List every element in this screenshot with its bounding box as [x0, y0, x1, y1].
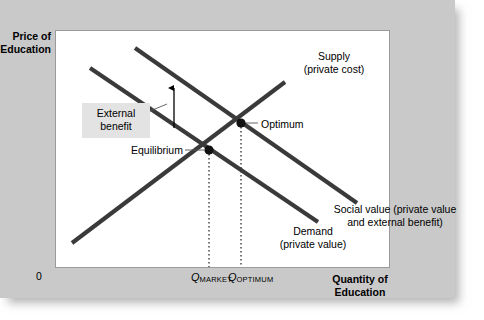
x-tick-optimum-subscript: OPTIMUM: [237, 275, 274, 284]
equilibrium-label: Equilibrium: [131, 144, 183, 157]
optimum-label: Optimum: [261, 118, 304, 131]
x-tick-optimum: QOPTIMUM: [228, 271, 273, 283]
equilibrium-point: [204, 145, 213, 154]
optimum-point: [236, 118, 245, 127]
demand-curve: [90, 68, 318, 222]
x-tick-optimum-letter: Q: [228, 271, 237, 283]
x-tick-market-letter: Q: [191, 271, 200, 283]
figure-root: Price of Education Quantity of Education…: [0, 0, 484, 320]
social-value-label: Social value (private value and external…: [320, 203, 470, 229]
external-benefit-callout: External benefit: [82, 103, 150, 138]
x-tick-market: QMARKET: [191, 271, 232, 283]
supply-label: Supply (private cost): [281, 50, 387, 75]
